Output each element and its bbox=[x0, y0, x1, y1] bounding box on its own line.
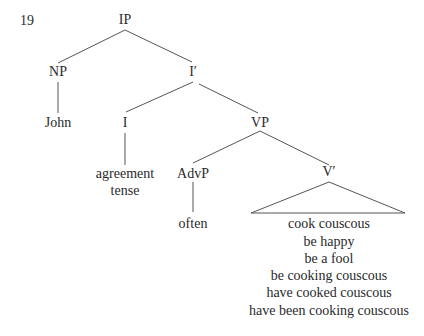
vbar-item: have cooked couscous bbox=[266, 285, 391, 301]
node-ip: IP bbox=[119, 12, 131, 28]
vbar-item: be happy bbox=[304, 234, 355, 250]
branch-vp-vbar bbox=[260, 131, 329, 165]
branch-vp-advp bbox=[193, 131, 260, 163]
vbar-item: cook couscous bbox=[288, 216, 370, 232]
leaf-tense: tense bbox=[111, 183, 140, 199]
leaf-often: often bbox=[179, 216, 208, 232]
node-np: NP bbox=[49, 64, 67, 80]
example-number: 19 bbox=[20, 13, 34, 29]
leaf-agreement: agreement bbox=[96, 166, 154, 182]
node-i-bar: I′ bbox=[189, 64, 197, 80]
vbar-triangle bbox=[251, 182, 405, 213]
vbar-item: be cooking couscous bbox=[271, 268, 388, 284]
node-v-bar: V′ bbox=[322, 164, 335, 180]
vbar-item: have been cooking couscous bbox=[249, 303, 409, 319]
branch-ip-np bbox=[58, 30, 125, 63]
leaf-john: John bbox=[45, 115, 71, 131]
branch-ibar-vp bbox=[199, 84, 258, 113]
node-i: I bbox=[123, 115, 128, 131]
node-vp: VP bbox=[251, 115, 269, 131]
node-advp: AdvP bbox=[177, 166, 209, 182]
branch-ibar-i bbox=[126, 82, 193, 112]
vbar-item: be a fool bbox=[305, 251, 354, 267]
branch-ip-ibar bbox=[125, 30, 192, 62]
